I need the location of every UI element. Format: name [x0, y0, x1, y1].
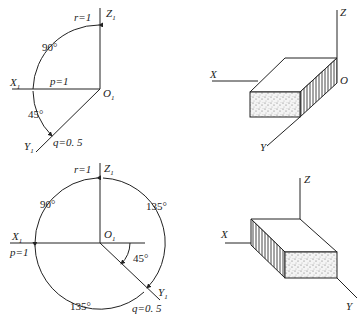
svg-text:135°: 135° — [70, 300, 91, 312]
svg-text:r=1: r=1 — [74, 163, 91, 175]
svg-text:Z1: Z1 — [106, 7, 116, 22]
svg-text:Z1: Z1 — [104, 162, 114, 177]
svg-text:O: O — [340, 74, 348, 86]
svg-text:45°: 45° — [28, 108, 43, 120]
arc-135-top — [103, 178, 165, 288]
svg-text:Y1: Y1 — [158, 286, 168, 301]
svg-text:Y: Y — [260, 141, 268, 153]
box-front-face — [285, 252, 337, 278]
box-front-face — [250, 92, 300, 117]
panel-bottom-right — [225, 178, 357, 298]
svg-text:X: X — [220, 228, 229, 240]
svg-text:r=1: r=1 — [74, 11, 91, 23]
svg-text:Z: Z — [340, 6, 347, 18]
panel-top-right — [212, 10, 337, 146]
y-axis — [267, 117, 300, 146]
panel-bottom-left-axes — [10, 163, 165, 309]
svg-text:Y: Y — [346, 300, 354, 312]
y1-axis — [100, 243, 160, 300]
svg-text:135°: 135° — [146, 200, 167, 212]
svg-text:Z: Z — [304, 173, 311, 185]
svg-text:90°: 90° — [40, 198, 55, 210]
svg-text:90°: 90° — [42, 41, 57, 53]
panel-bottom-left-labels: Z1 r=1 90° 135° X1 p=1 O1 45° Y1 135° q=… — [9, 162, 168, 314]
arc-90 — [35, 178, 97, 243]
svg-text:O1: O1 — [104, 228, 115, 243]
svg-text:O1: O1 — [103, 87, 114, 102]
svg-text:p=1: p=1 — [49, 75, 68, 87]
svg-text:X: X — [209, 68, 218, 80]
axonometric-diagram: Z1 r=1 90° X1 p=1 O1 45° Y1 q=0. 5 Z X O… — [0, 0, 364, 326]
svg-text:q=0. 5: q=0. 5 — [132, 302, 162, 314]
svg-text:p=1: p=1 — [9, 246, 28, 258]
svg-text:q=0. 5: q=0. 5 — [53, 136, 83, 148]
arc-45 — [121, 243, 130, 264]
svg-text:Y1: Y1 — [24, 140, 34, 155]
svg-text:45°: 45° — [133, 252, 148, 264]
y-axis — [337, 278, 357, 298]
